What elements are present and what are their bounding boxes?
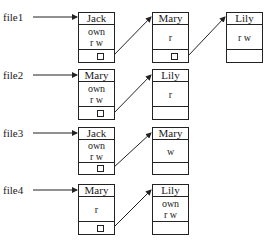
user-name: Mary xyxy=(79,185,114,197)
next-pointer xyxy=(79,107,114,120)
user-name: Jack xyxy=(79,13,114,25)
next-pointer-null xyxy=(153,107,188,120)
user-name: Jack xyxy=(79,128,114,140)
perm-r: r xyxy=(79,204,114,215)
perm-own: own xyxy=(79,26,114,37)
pointer-box-icon xyxy=(97,165,104,172)
user-name: Mary xyxy=(153,13,188,25)
user-name: Mary xyxy=(153,128,188,140)
file4-label: file4 xyxy=(3,184,23,196)
permissions: own r w xyxy=(153,197,188,222)
next-pointer-null xyxy=(227,50,262,63)
perm-r: r xyxy=(153,89,188,100)
file2-label: file2 xyxy=(3,69,23,81)
permissions: own r w xyxy=(79,82,114,107)
perm-rw: r w xyxy=(227,32,262,43)
permissions: r xyxy=(153,82,188,107)
acl-node: Lily r xyxy=(152,69,189,120)
permissions: w xyxy=(153,140,188,163)
pointer-box-icon xyxy=(171,53,178,60)
next-pointer-null xyxy=(153,222,188,235)
perm-rw: r w xyxy=(79,151,114,162)
permissions: r w xyxy=(227,25,262,50)
acl-node: Mary w xyxy=(152,127,189,175)
perm-w: w xyxy=(153,146,188,157)
acl-node: Mary r xyxy=(152,12,189,63)
user-name: Lily xyxy=(227,13,262,25)
perm-own: own xyxy=(79,140,114,151)
perm-rw: r w xyxy=(153,209,188,220)
permissions: own r w xyxy=(79,140,114,163)
acl-node: Mary r xyxy=(78,184,115,235)
next-pointer xyxy=(79,222,114,235)
user-name: Lily xyxy=(153,185,188,197)
perm-own: own xyxy=(153,198,188,209)
next-pointer xyxy=(79,50,114,63)
pointer-box-icon xyxy=(97,110,104,117)
next-pointer xyxy=(79,163,114,175)
acl-node: Lily r w xyxy=(226,12,263,63)
perm-r: r xyxy=(153,32,188,43)
permissions: r xyxy=(79,197,114,222)
acl-node: Mary own r w xyxy=(78,69,115,120)
acl-node: Jack own r w xyxy=(78,127,115,175)
pointer-box-icon xyxy=(97,225,104,232)
pointer-box-icon xyxy=(97,53,104,60)
next-pointer xyxy=(153,50,188,63)
acl-node: Lily own r w xyxy=(152,184,189,235)
file1-label: file1 xyxy=(3,11,23,23)
acl-node: Jack own r w xyxy=(78,12,115,63)
permissions: own r w xyxy=(79,25,114,50)
perm-own: own xyxy=(79,83,114,94)
user-name: Mary xyxy=(79,70,114,82)
perm-rw: r w xyxy=(79,37,114,48)
permissions: r xyxy=(153,25,188,50)
next-pointer-null xyxy=(153,163,188,175)
perm-rw: r w xyxy=(79,94,114,105)
file3-label: file3 xyxy=(3,127,23,139)
user-name: Lily xyxy=(153,70,188,82)
